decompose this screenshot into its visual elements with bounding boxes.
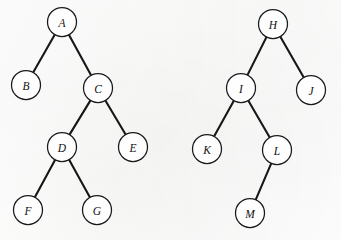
tree-node-i[interactable]: I xyxy=(227,74,256,103)
tree-node-l[interactable]: L xyxy=(263,136,292,165)
node-label-b: B xyxy=(22,80,29,92)
node-label-h: H xyxy=(268,19,278,31)
tree-node-k[interactable]: K xyxy=(193,135,222,164)
node-label-l: L xyxy=(273,145,280,157)
edges-layer xyxy=(32,33,304,201)
tree-edge-h-j xyxy=(279,35,304,78)
node-label-m: M xyxy=(244,208,256,220)
node-label-a: A xyxy=(57,17,66,29)
tree-right-edges xyxy=(213,35,304,201)
tree-node-e[interactable]: E xyxy=(119,133,148,162)
nodes-layer: ABCDEFGHIJKLM xyxy=(12,8,326,228)
tree-edge-d-g xyxy=(68,158,90,198)
node-label-k: K xyxy=(202,144,212,156)
tree-node-j[interactable]: J xyxy=(297,76,326,105)
tree-edge-a-b xyxy=(32,33,55,73)
tree-node-g[interactable]: G xyxy=(83,196,112,225)
tree-edge-i-k xyxy=(213,99,234,137)
node-label-f: F xyxy=(23,205,32,217)
tree-node-h[interactable]: H xyxy=(259,10,288,39)
tree-edge-l-m xyxy=(255,162,272,201)
tree-node-c[interactable]: C xyxy=(84,74,113,103)
tree-left-edges xyxy=(32,33,126,198)
figure-canvas: ABCDEFGHIJKLM xyxy=(0,0,341,240)
tree-edge-h-i xyxy=(247,36,267,77)
node-label-d: D xyxy=(57,142,67,154)
node-label-j: J xyxy=(308,85,314,97)
tree-edge-a-c xyxy=(68,33,92,76)
tree-left-nodes: ABCDEFG xyxy=(12,8,148,225)
tree-node-a[interactable]: A xyxy=(48,8,77,37)
tree-node-m[interactable]: M xyxy=(236,199,265,228)
node-label-e: E xyxy=(128,142,136,154)
binary-trees-diagram: ABCDEFGHIJKLM xyxy=(0,0,341,240)
tree-edge-c-d xyxy=(69,99,91,136)
node-label-g: G xyxy=(93,205,102,217)
tree-node-d[interactable]: D xyxy=(48,133,77,162)
tree-node-b[interactable]: B xyxy=(12,71,41,100)
tree-edge-i-l xyxy=(248,99,271,139)
tree-edge-c-e xyxy=(105,99,127,136)
node-label-c: C xyxy=(94,83,102,95)
tree-edge-d-f xyxy=(34,158,56,198)
tree-node-f[interactable]: F xyxy=(14,196,43,225)
